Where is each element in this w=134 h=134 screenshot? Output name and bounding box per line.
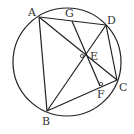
segment-ab — [39, 17, 47, 111]
point-label-f: F — [97, 88, 105, 101]
point-label-e: E — [90, 50, 98, 63]
segments — [39, 17, 117, 111]
point-label-d: D — [107, 14, 116, 27]
right-angle-mark-f — [99, 82, 102, 85]
point-label-a: A — [27, 6, 37, 19]
point-label-c: C — [119, 81, 127, 94]
diagram-canvas: ABCDEFG — [0, 0, 134, 134]
circumscribed-circle — [13, 8, 121, 116]
angle-mark-e — [80, 54, 83, 57]
point-label-g: G — [65, 7, 74, 20]
point-label-b: B — [42, 115, 50, 128]
geometry-figure: ABCDEFG — [0, 0, 134, 134]
